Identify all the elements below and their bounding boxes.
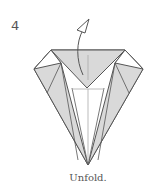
arrowhead-icon [77,19,89,33]
origami-diagram [0,0,155,191]
step-caption: Unfold. [0,173,155,183]
